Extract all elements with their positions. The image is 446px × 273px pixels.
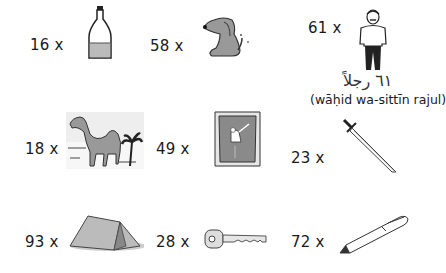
man-icon [356,8,390,76]
count-label-key: 28 x [156,233,190,251]
key-icon [204,228,268,254]
count-label-pen: 72 x [291,233,325,251]
count-label-dog: 58 x [150,37,184,55]
camel-icon [66,112,144,173]
arabic-numeral-caption: ٦١ رجلاً [343,71,392,90]
transliteration-caption: (wāḥid wa-sittīn rajul) [310,92,446,107]
count-label-carpet: 49 x [156,140,190,158]
count-label-camel: 18 x [25,140,59,158]
dog-icon [202,14,252,62]
tent-icon [68,214,144,256]
sword-icon [342,118,402,182]
carpet-icon [213,110,262,172]
pen-icon [338,213,410,259]
count-label-bottle: 16 x [30,36,64,54]
count-label-sword: 23 x [291,149,325,167]
count-label-man: 61 x [308,19,342,37]
bottle-icon [86,5,114,63]
count-label-tent: 93 x [25,233,59,251]
